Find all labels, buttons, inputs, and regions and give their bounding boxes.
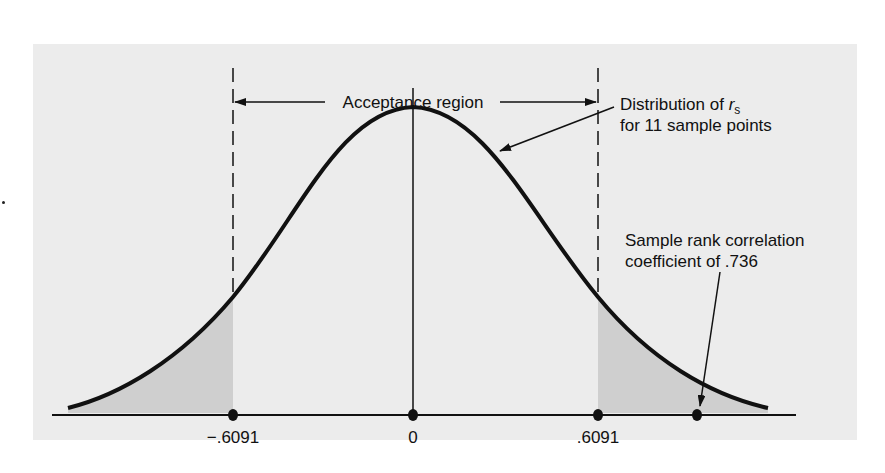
distribution-chart: Acceptance region −.6091 0 .6091 Distrib… — [0, 0, 885, 473]
sample-label-line1: Sample rank correlation — [625, 231, 805, 250]
tick-label-pos: .6091 — [577, 428, 620, 447]
distribution-pointer — [500, 107, 614, 151]
point-pos-critical — [593, 409, 603, 421]
point-sample-value — [692, 409, 702, 421]
left-rejection-shade — [68, 297, 233, 413]
tick-label-zero: 0 — [408, 428, 417, 447]
acceptance-label: Acceptance region — [343, 93, 484, 112]
tick-label-neg: −.6091 — [207, 428, 259, 447]
distribution-label-line2: for 11 sample points — [620, 116, 772, 135]
point-zero — [408, 409, 418, 421]
distribution-label-line1: Distribution of rs — [620, 95, 740, 117]
sample-label-line2: coefficient of .736 — [625, 252, 758, 271]
right-rejection-shade — [598, 297, 768, 413]
point-neg-critical — [228, 409, 238, 421]
